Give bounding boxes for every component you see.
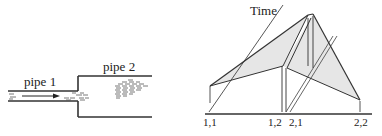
pipe2-label: pipe 2 [103, 59, 135, 74]
tick-label-2-2: 2,2 [354, 116, 368, 128]
pipe1-label: pipe 1 [24, 74, 56, 89]
time-axis-label: Time [250, 3, 277, 18]
fluid-dashes-pipe1 [9, 94, 16, 99]
flow-arrow-head [53, 94, 60, 99]
apex [308, 14, 313, 15]
tick-label-2-1: 2,1 [289, 116, 303, 128]
fluid-dashes-step [64, 93, 89, 100]
figure: pipe 1 pipe 2 Time 1,1 1,2 2,1 [0, 0, 382, 136]
tick-label-1-1: 1,1 [203, 116, 217, 128]
fluid-dashes-pipe2 [115, 80, 148, 98]
pipe-diagram: pipe 1 pipe 2 [8, 59, 152, 117]
tick-label-1-2: 1,2 [268, 116, 282, 128]
time-diagram: Time 1,1 1,2 2,1 2,2 [203, 3, 372, 128]
